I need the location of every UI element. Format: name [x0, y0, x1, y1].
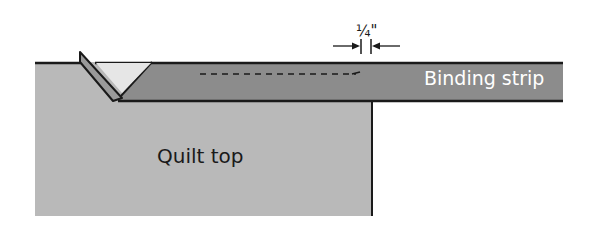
binding-diagram	[0, 0, 592, 230]
binding-strip-label: Binding strip	[424, 67, 544, 89]
quilt-top-label: Quilt top	[157, 144, 244, 168]
arrow-left-icon	[372, 43, 380, 50]
seam-allowance-indicator	[333, 39, 400, 54]
arrow-right-icon	[352, 43, 360, 50]
seam-allowance-label: ¼"	[356, 22, 377, 40]
